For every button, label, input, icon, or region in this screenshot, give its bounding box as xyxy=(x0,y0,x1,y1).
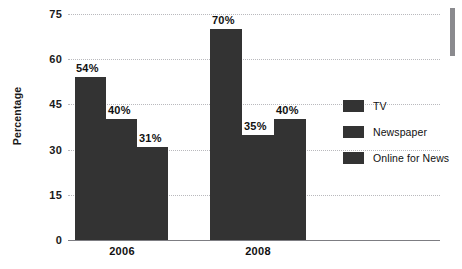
bar-label-2006-newspaper: 40% xyxy=(108,104,131,116)
y-tick-75: 75 xyxy=(20,8,62,20)
y-tick-15: 15 xyxy=(20,189,62,201)
y-tick-label-0: 0 xyxy=(20,234,62,246)
y-tick-30: 30 xyxy=(20,144,62,156)
y-tick-0: 0 xyxy=(20,234,62,246)
bar-label-2006-online-for-news: 31% xyxy=(139,132,162,144)
legend-label-tv: TV xyxy=(373,100,387,112)
legend-item-online-for-news: Online for News xyxy=(343,145,449,171)
legend-swatch-online-for-news xyxy=(343,152,364,164)
legend-item-newspaper: Newspaper xyxy=(343,119,449,145)
bar-label-2008-tv: 70% xyxy=(212,14,235,26)
x-group-label-2008: 2008 xyxy=(227,245,289,257)
y-tick-60: 60 xyxy=(20,53,62,65)
legend-item-tv: TV xyxy=(343,93,449,119)
bar-2006-newspaper xyxy=(106,119,137,240)
bar-label-2006-tv: 54% xyxy=(76,62,99,74)
bar-chart: 75 60 45 30 15 0 Percentage 54% 40% 31% … xyxy=(0,0,462,269)
y-tick-label-45: 45 xyxy=(20,98,62,110)
x-axis-line xyxy=(68,240,440,241)
bar-2006-tv xyxy=(75,77,106,240)
bar-label-2008-newspaper: 35% xyxy=(244,120,267,132)
legend-swatch-newspaper xyxy=(343,126,364,138)
gridline-60 xyxy=(68,59,440,60)
y-tick-45: 45 xyxy=(20,98,62,110)
legend-label-newspaper: Newspaper xyxy=(373,126,427,138)
bar-2008-tv xyxy=(210,29,242,240)
gridline-75 xyxy=(68,14,440,15)
scrollbar-artifact[interactable] xyxy=(450,8,455,56)
y-tick-label-75: 75 xyxy=(20,8,62,20)
bar-2006-online-for-news xyxy=(137,147,168,240)
x-group-label-2006: 2006 xyxy=(91,245,153,257)
y-tick-label-30: 30 xyxy=(20,144,62,156)
bar-label-2008-online-for-news: 40% xyxy=(276,104,299,116)
legend: TV Newspaper Online for News xyxy=(343,93,449,171)
y-axis-title: Percentage xyxy=(11,76,23,156)
legend-label-online-for-news: Online for News xyxy=(373,152,449,164)
legend-swatch-tv xyxy=(343,100,364,112)
bar-2008-newspaper xyxy=(242,135,274,240)
y-tick-label-60: 60 xyxy=(20,53,62,65)
bar-2008-online-for-news xyxy=(274,119,306,240)
y-tick-label-15: 15 xyxy=(20,189,62,201)
